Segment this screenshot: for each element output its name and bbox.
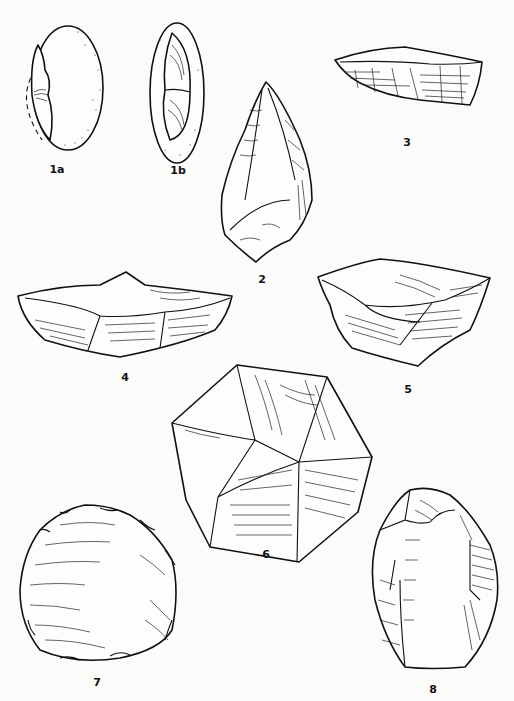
label-5: 5: [404, 383, 412, 396]
label-6: 6: [262, 548, 270, 561]
artifact-4-drawing: [18, 272, 232, 357]
label-3: 3: [403, 136, 411, 149]
figure-plate: 1a 1b 2 3 4 5 6 7 8: [0, 0, 514, 701]
label-2: 2: [258, 273, 266, 286]
artifact-6-drawing: [172, 365, 372, 562]
label-4: 4: [121, 371, 129, 384]
artifact-1b-drawing: [150, 23, 204, 163]
artifact-8-drawing: [372, 488, 497, 668]
label-8: 8: [429, 683, 437, 696]
artifact-3-drawing: [335, 47, 482, 105]
label-7: 7: [93, 676, 101, 689]
artifact-1a-drawing: [26, 26, 103, 150]
artifact-2-drawing: [221, 82, 312, 262]
label-1b: 1b: [170, 164, 186, 177]
stone-tools-drawing: [0, 0, 514, 701]
artifact-5-drawing: [318, 259, 490, 366]
artifact-7-drawing: [20, 505, 176, 660]
label-1a: 1a: [49, 163, 64, 176]
